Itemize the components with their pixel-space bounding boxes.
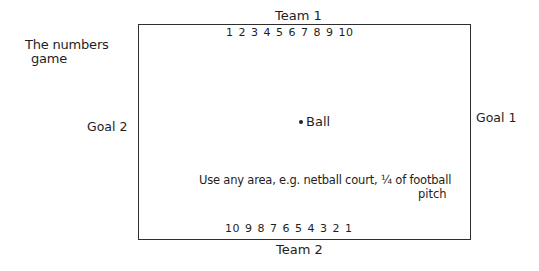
team-1-label: Team 1 (275, 8, 322, 23)
title-line-1: The numbers (25, 37, 109, 52)
area-note-line-2: pitch (418, 187, 447, 201)
team-2-player-numbers: 10 9 8 7 6 5 4 3 2 1 (225, 222, 352, 235)
title-line-2: game (25, 52, 109, 66)
goal-1-label: Goal 1 (476, 110, 516, 125)
team-1-player-numbers: 1 2 3 4 5 6 7 8 9 10 (226, 26, 353, 39)
ball-dot-icon (299, 120, 303, 124)
area-note-line-1: Use any area, e.g. netball court, ¼ of f… (199, 173, 451, 187)
team-2-label: Team 2 (276, 242, 323, 257)
pitch-boundary (138, 24, 471, 240)
goal-2-label: Goal 2 (87, 119, 127, 134)
ball-label: Ball (306, 114, 330, 129)
diagram-title: The numbers game (25, 38, 109, 66)
